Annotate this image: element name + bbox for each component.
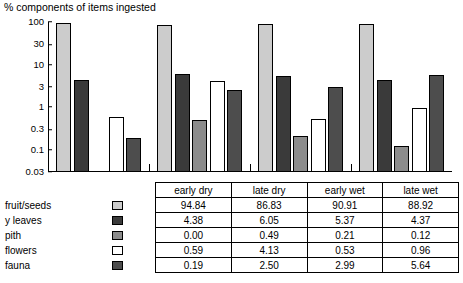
table-cell: 4.37 (383, 213, 459, 228)
bar (359, 24, 374, 172)
data-table: early drylate dryearly wetlate wet fruit… (4, 182, 459, 273)
table-cell: 2.99 (307, 258, 383, 273)
table-cell: 6.05 (231, 213, 307, 228)
table-cell: 5.64 (383, 258, 459, 273)
table-column-header: early dry (156, 183, 232, 198)
table-row-label: fauna (4, 258, 80, 273)
bar (109, 117, 124, 172)
table-cell: 94.84 (156, 198, 232, 213)
table-cell: 0.59 (156, 243, 232, 258)
legend-swatch-icon (112, 231, 123, 240)
table-corner-label (4, 183, 80, 198)
table-row-label: fruit/seeds (4, 198, 80, 213)
table-cell: 5.37 (307, 213, 383, 228)
bar (394, 146, 409, 172)
chart-title: % components of items ingested (4, 1, 156, 13)
table-cell: 86.83 (231, 198, 307, 213)
bar (210, 81, 225, 172)
bar (157, 25, 172, 172)
table-header-row: early drylate dryearly wetlate wet (4, 183, 459, 198)
bar (429, 75, 444, 172)
bar (276, 76, 291, 172)
table-cell: 0.00 (156, 228, 232, 243)
table-cell: 90.91 (307, 198, 383, 213)
bar-group (351, 22, 452, 172)
table-cell: 0.12 (383, 228, 459, 243)
table-column-header: late wet (383, 183, 459, 198)
legend-swatch-cell (80, 213, 156, 228)
bar (56, 23, 71, 172)
table-body: fruit/seeds94.8486.8390.9188.92y leaves4… (4, 198, 459, 273)
table-row: y leaves4.386.055.374.37 (4, 213, 459, 228)
y-tick-label: 1 (39, 102, 48, 112)
bar (311, 119, 326, 172)
y-tick-label: 100 (28, 17, 48, 27)
bar (328, 87, 343, 172)
table-head: early drylate dryearly wetlate wet (4, 183, 459, 198)
y-tick-label: 0.3 (31, 125, 48, 135)
table-cell: 0.19 (156, 258, 232, 273)
table-cell: 88.92 (383, 198, 459, 213)
bar (175, 74, 190, 172)
table-column-header: late dry (231, 183, 307, 198)
table-cell: 4.38 (156, 213, 232, 228)
y-tick-label: 0.03 (26, 167, 49, 177)
bar (412, 108, 427, 172)
legend-swatch-icon (112, 246, 123, 255)
legend-swatch-cell (80, 198, 156, 213)
y-tick-label: 10 (33, 60, 48, 70)
table-cell: 0.53 (307, 243, 383, 258)
table-cell: 0.49 (231, 228, 307, 243)
table-cell: 2.50 (231, 258, 307, 273)
table-row-label: flowers (4, 243, 80, 258)
table-row: fauna0.192.502.995.64 (4, 258, 459, 273)
y-tick-label: 0.1 (31, 145, 48, 155)
table-cell: 0.21 (307, 228, 383, 243)
bar (74, 80, 89, 172)
bar (293, 136, 308, 172)
legend-swatch-cell (80, 243, 156, 258)
table-row: flowers0.594.130.530.96 (4, 243, 459, 258)
table-column-header: early wet (307, 183, 383, 198)
plot-area: 1003010310.30.10.03 (48, 22, 452, 172)
y-tick-label: 3 (39, 82, 48, 92)
legend-swatch-icon (112, 216, 123, 225)
bar-group (48, 22, 149, 172)
table-row: pith0.000.490.210.12 (4, 228, 459, 243)
table-corner-swatch (80, 183, 156, 198)
table-row-label: y leaves (4, 213, 80, 228)
legend-swatch-icon (112, 261, 123, 270)
bar (227, 90, 242, 172)
legend-swatch-cell (80, 228, 156, 243)
table-row-label: pith (4, 228, 80, 243)
bar (377, 80, 392, 172)
table-cell: 4.13 (231, 243, 307, 258)
data-table-wrapper: early drylate dryearly wetlate wet fruit… (4, 182, 459, 273)
table-cell: 0.96 (383, 243, 459, 258)
bar-group (149, 22, 250, 172)
chart-figure: % components of items ingested 100301031… (0, 0, 463, 283)
bar (192, 120, 207, 172)
y-tick-label: 30 (33, 40, 48, 50)
legend-swatch-icon (112, 201, 123, 210)
table-row: fruit/seeds94.8486.8390.9188.92 (4, 198, 459, 213)
bar (258, 24, 273, 172)
bar (126, 138, 141, 172)
legend-swatch-cell (80, 258, 156, 273)
bar-group (250, 22, 351, 172)
